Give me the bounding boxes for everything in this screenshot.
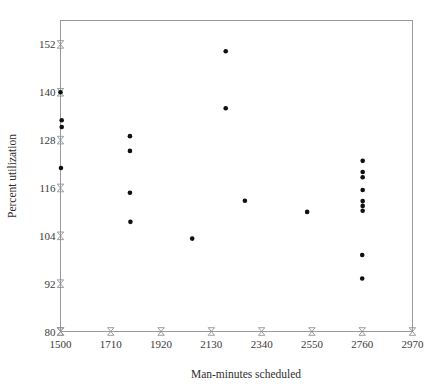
data-point [360, 159, 365, 164]
y-tick-label: 92 [45, 278, 56, 290]
data-point [305, 210, 310, 215]
data-point [59, 166, 64, 171]
data-point [128, 190, 133, 195]
x-tick-label: 2970 [402, 338, 425, 350]
data-point [360, 199, 365, 204]
x-tick-label: 2550 [301, 338, 324, 350]
data-point [223, 106, 228, 111]
x-tick-label: 2760 [351, 338, 374, 350]
data-point [360, 208, 365, 213]
data-point [360, 276, 365, 281]
y-tick-label: 116 [39, 182, 56, 194]
data-point [190, 236, 195, 241]
data-point [360, 170, 365, 175]
data-point [128, 149, 133, 154]
y-axis-title: Percent utilization [6, 134, 18, 218]
x-tick-label: 1710 [100, 338, 123, 350]
scatter-plot-figure: 8092104116128140152 15001710192021302340… [0, 0, 430, 392]
chart-canvas: 8092104116128140152 15001710192021302340… [0, 0, 430, 392]
x-axis-title: Man-minutes scheduled [191, 368, 301, 380]
data-points-layer [58, 49, 365, 281]
x-axis-ticks: 15001710192021302340255027602970 [50, 328, 425, 350]
x-tick-label: 2130 [200, 338, 223, 350]
data-point [243, 198, 248, 203]
data-point [128, 220, 133, 225]
y-tick-label: 80 [45, 326, 57, 338]
data-point [58, 90, 63, 95]
y-tick-label: 152 [39, 38, 56, 50]
x-tick-label: 2340 [251, 338, 274, 350]
data-point [223, 49, 228, 54]
data-point [360, 253, 365, 258]
y-tick-label: 140 [39, 86, 56, 98]
y-tick-label: 128 [39, 134, 56, 146]
x-tick-label: 1500 [50, 338, 73, 350]
y-axis-ticks: 8092104116128140152 [39, 38, 64, 337]
data-point [360, 204, 365, 209]
data-point [360, 188, 365, 193]
y-tick-label: 104 [39, 230, 56, 242]
data-point [128, 134, 133, 139]
data-point [59, 125, 64, 130]
data-point [360, 175, 365, 180]
plot-frame [61, 21, 413, 332]
x-tick-label: 1920 [150, 338, 173, 350]
data-point [59, 118, 64, 123]
